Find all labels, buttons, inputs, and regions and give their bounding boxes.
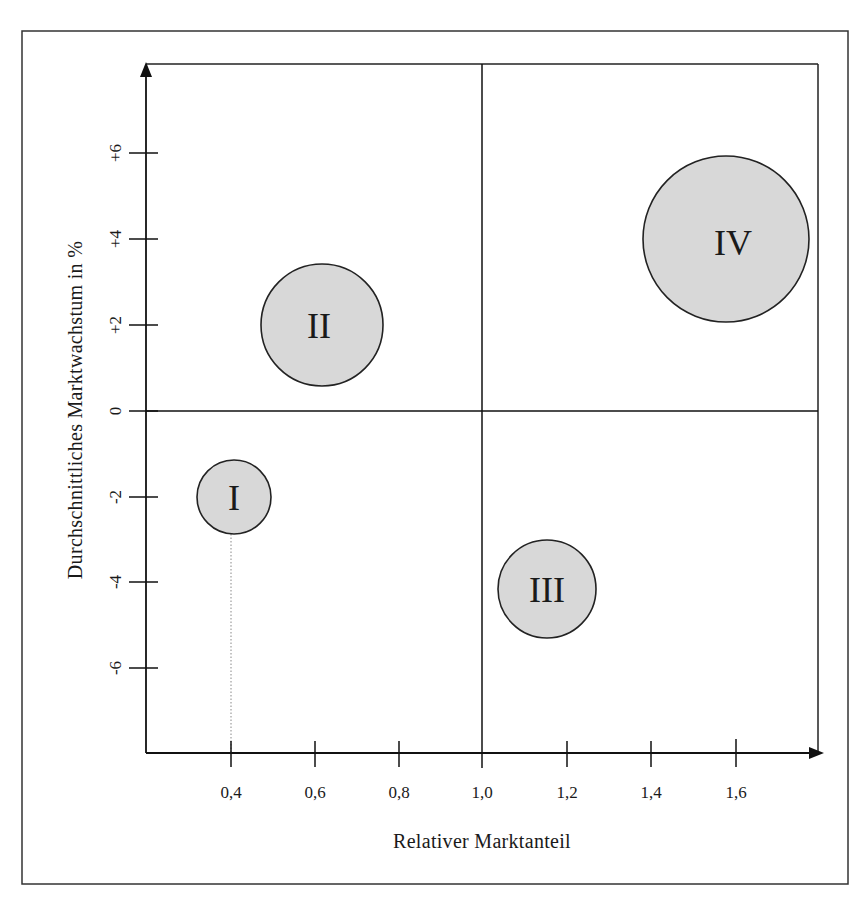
bubble-label: I [228,478,240,518]
bubble-label: IV [714,223,752,263]
y-tick-label: -2 [106,490,125,504]
y-tick-labels: +6 +4 +2 0 -2 -4 -6 [106,144,125,675]
x-tick-label: 0,6 [304,783,325,802]
bubble-IV: IV [643,156,809,322]
y-tick-label: 0 [106,407,125,416]
bubble-I: I [197,460,271,534]
bubble-II: II [261,264,383,386]
y-tick-label: +4 [106,229,125,248]
x-tick-label: 1,2 [556,783,577,802]
x-tick-label: 1,0 [471,783,492,802]
x-tick-label: 1,4 [640,783,662,802]
x-axis-arrow-icon [809,747,824,759]
y-ticks [129,153,158,668]
x-tick-label: 0,4 [220,783,242,802]
y-tick-label: +6 [106,144,125,162]
y-tick-label: -6 [106,661,125,675]
bubble-label: III [529,570,565,610]
y-axis-title: Durchschnittliches Marktwachstum in % [64,241,86,579]
x-tick-label: 0,8 [388,783,409,802]
x-tick-label: 1,6 [725,783,746,802]
x-axis-title: Relativer Marktanteil [393,830,571,852]
x-tick-labels: 0,4 0,6 0,8 1,0 1,2 1,4 1,6 [220,783,746,802]
y-tick-label: -4 [106,574,125,589]
y-tick-label: +2 [106,316,125,334]
bubble-III: III [498,540,596,638]
portfolio-chart: +6 +4 +2 0 -2 -4 -6 0,4 0,6 0,8 1,0 1,2 … [0,0,864,910]
bubble-label: II [307,306,331,346]
